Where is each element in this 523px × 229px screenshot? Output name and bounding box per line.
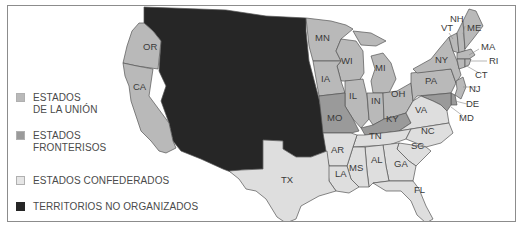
map-frame: OR CA MN WI IA IL MI IN OH PA NY VT NH M… [7,5,516,222]
legend-union-line1: ESTADOS [33,92,97,104]
label-me: ME [467,22,481,33]
swatch-union [16,93,25,102]
label-ny: NY [435,54,449,65]
legend-union-line2: DE LA UNIÓN [33,104,97,116]
label-in: IN [371,95,381,106]
label-ia: IA [321,73,331,84]
label-de: DE [466,98,479,109]
label-va: VA [415,104,428,115]
legend-confederate-label: ESTADOS CONFEDERADOS [33,175,169,187]
legend-territories-label: TERRITORIOS NO ORGANIZADOS [33,201,198,213]
label-ma: MA [481,41,496,52]
swatch-border-states [16,131,25,140]
label-nj: NJ [469,83,481,94]
label-ca: CA [133,81,147,92]
legend-item-border-states: ESTADOS FRONTERISOS [16,130,106,154]
label-ky: KY [386,113,399,124]
swatch-territories [16,202,25,211]
label-sc: SC [411,140,424,151]
label-ct: CT [475,69,488,80]
legend-item-confederate: ESTADOS CONFEDERADOS [16,175,169,187]
label-nh: NH [450,13,464,24]
state-nj [455,77,466,99]
label-pa: PA [425,75,438,86]
label-oh: OH [391,88,405,99]
label-nc: NC [421,125,435,136]
label-or: OR [143,41,157,52]
label-md: MD [459,112,474,123]
label-al: AL [371,154,383,165]
label-fl: FL [414,184,425,195]
legend-item-union: ESTADOS DE LA UNIÓN [16,92,97,116]
legend-item-territories: TERRITORIOS NO ORGANIZADOS [16,201,198,213]
label-wi: WI [341,55,353,66]
label-ri: RI [489,55,499,66]
label-ar: AR [331,144,344,155]
label-mo: MO [327,112,342,123]
label-mn: MN [315,32,330,43]
legend-border-line2: FRONTERISOS [33,142,106,154]
label-tx: TX [281,174,294,185]
label-la: LA [335,168,347,179]
label-ms: MS [349,162,363,173]
swatch-confederate [16,176,25,185]
legend-border-line1: ESTADOS [33,130,106,142]
label-ga: GA [394,158,408,169]
label-tn: TN [369,130,382,141]
label-mi: MI [375,62,386,73]
label-il: IL [349,90,357,101]
